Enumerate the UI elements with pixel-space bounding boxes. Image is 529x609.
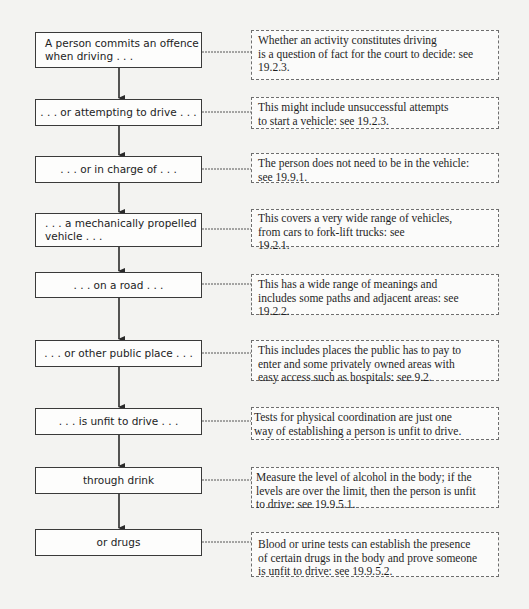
note-text: This might include unsuccessful attempts… xyxy=(258,101,448,127)
step-box-public-place: . . . or other public place . . . xyxy=(35,340,202,367)
note-box-road: This has a wide range of meanings and in… xyxy=(251,274,499,315)
step-box-drink: through drink xyxy=(35,467,202,494)
note-text: Whether an activity constitutes driving … xyxy=(258,34,473,73)
step-label: . . . or in charge of . . . xyxy=(60,163,177,176)
note-text: Tests for physical coordination are just… xyxy=(254,411,461,437)
step-label: . . . or attempting to drive . . . xyxy=(40,106,196,119)
note-box-public-place: This includes places the public has to p… xyxy=(251,340,499,381)
step-label: through drink xyxy=(83,474,154,487)
step-label: . . . on a road . . . xyxy=(74,279,164,292)
note-box-drink: Measure the level of alcohol in the body… xyxy=(251,467,499,508)
step-box-drugs: or drugs xyxy=(35,529,202,556)
step-label: . . . or other public place . . . xyxy=(44,347,193,360)
note-text: Blood or urine tests can establish the p… xyxy=(258,538,477,577)
note-text: This has a wide range of meanings and in… xyxy=(258,278,459,317)
note-text: The person does not need to be in the ve… xyxy=(258,157,469,183)
offence-flowchart: A person commits an offence when driving… xyxy=(0,0,529,609)
note-box-unfit: Tests for physical coordination are just… xyxy=(251,407,499,440)
note-box-drugs: Blood or urine tests can establish the p… xyxy=(251,532,499,577)
step-box-road: . . . on a road . . . xyxy=(35,272,202,298)
step-box-attempting: . . . or attempting to drive . . . xyxy=(35,99,202,126)
step-label: . . . a mechanically propelled vehicle .… xyxy=(45,217,197,243)
note-box-vehicle: This covers a very wide range of vehicle… xyxy=(251,209,499,247)
step-box-unfit: . . . is unfit to drive . . . xyxy=(35,408,202,435)
note-box-in-charge: The person does not need to be in the ve… xyxy=(251,153,499,183)
step-label: or drugs xyxy=(97,536,141,549)
note-box-driving: Whether an activity constitutes driving … xyxy=(251,30,499,80)
step-box-vehicle: . . . a mechanically propelled vehicle .… xyxy=(35,213,202,247)
step-label: . . . is unfit to drive . . . xyxy=(59,415,179,428)
step-box-in-charge: . . . or in charge of . . . xyxy=(35,156,202,183)
note-text: This covers a very wide range of vehicle… xyxy=(258,212,452,251)
step-label: A person commits an offence when driving… xyxy=(45,37,199,63)
note-text: This includes places the public has to p… xyxy=(258,344,461,383)
note-box-attempting: This might include unsuccessful attempts… xyxy=(251,97,499,129)
note-text: Measure the level of alcohol in the body… xyxy=(256,471,476,510)
step-box-driving: A person commits an offence when driving… xyxy=(35,32,202,68)
